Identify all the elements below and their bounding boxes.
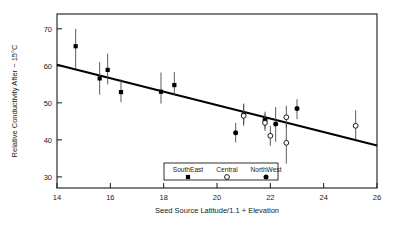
legend-entries: SouthEastCentralNorthWest xyxy=(173,166,282,180)
data-point-central xyxy=(284,115,289,120)
data-point-central xyxy=(241,113,246,118)
x-tick-label: 14 xyxy=(53,193,61,202)
legend-marker-central xyxy=(225,175,230,180)
legend-label-northwest: NorthWest xyxy=(250,166,281,173)
x-tick-label: 26 xyxy=(373,193,381,202)
plot-border xyxy=(57,14,377,188)
x-axis-ticks xyxy=(57,183,377,188)
legend-marker-northwest xyxy=(264,175,269,180)
legend: SouthEastCentralNorthWest xyxy=(164,163,282,180)
y-tick-label: 50 xyxy=(44,99,52,108)
regression-line xyxy=(57,65,377,146)
data-point-central xyxy=(263,120,268,125)
y-axis-title: Relative Conductivity After − 15°C xyxy=(10,44,19,157)
data-point-southeast xyxy=(172,83,176,87)
regression-line-path xyxy=(57,65,377,146)
data-point-central xyxy=(268,133,273,138)
data-point-central xyxy=(284,140,289,145)
y-axis-tick-labels: 3040506070 xyxy=(44,25,52,182)
y-axis-ticks xyxy=(57,29,62,177)
y-tick-label: 70 xyxy=(44,25,52,34)
data-point-central xyxy=(353,123,358,128)
data-point-southeast xyxy=(74,44,78,48)
y-tick-label: 30 xyxy=(44,173,52,182)
data-point-southeast xyxy=(106,68,110,72)
data-point-northwest xyxy=(233,130,238,135)
data-point-southeast xyxy=(119,90,123,94)
data-point-southeast xyxy=(98,76,102,80)
scatter-plot-figure: 14161820222426 3040506070 Seed Source La… xyxy=(0,0,408,227)
legend-label-central: Central xyxy=(216,166,238,173)
x-axis-title: Seed Source Latitude/1.1 + Elevation xyxy=(155,206,279,215)
x-tick-label: 16 xyxy=(106,193,114,202)
data-point-northwest xyxy=(295,106,300,111)
legend-marker-southeast xyxy=(186,175,190,179)
chart-canvas: 14161820222426 3040506070 Seed Source La… xyxy=(0,0,408,227)
y-tick-label: 60 xyxy=(44,62,52,71)
legend-label-southeast: SouthEast xyxy=(173,166,204,173)
x-axis-tick-labels: 14161820222426 xyxy=(53,193,381,202)
x-tick-label: 24 xyxy=(319,193,327,202)
y-tick-label: 40 xyxy=(44,136,52,145)
x-tick-label: 22 xyxy=(266,193,274,202)
error-bars xyxy=(76,29,356,164)
x-tick-label: 20 xyxy=(213,193,221,202)
data-point-northwest xyxy=(273,121,278,126)
x-tick-label: 18 xyxy=(159,193,167,202)
plot-frame xyxy=(57,14,377,188)
data-point-southeast xyxy=(159,90,163,94)
